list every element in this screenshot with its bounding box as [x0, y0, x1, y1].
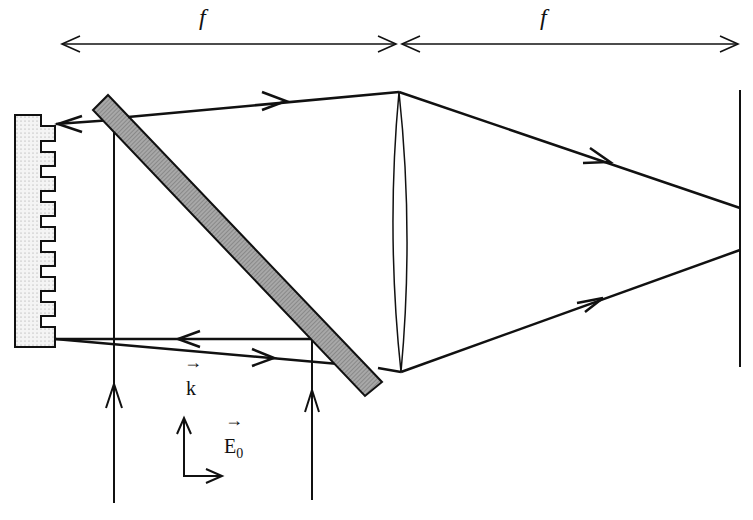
field-subscript: 0: [236, 446, 243, 461]
focal-length-arrow-right: [402, 36, 738, 52]
focal-length-label-right: f: [540, 4, 547, 31]
polarization-axes-icon: [177, 418, 222, 483]
lens: [393, 92, 407, 372]
wave-vector-label: k: [186, 377, 196, 400]
diffraction-grating: [15, 115, 55, 347]
beams-lens-screen: [399, 92, 740, 372]
wave-vector-arrow: →: [184, 352, 202, 373]
field-vector-arrow: →: [225, 410, 243, 431]
focal-length-arrow-left: [62, 36, 396, 52]
beam-splitter-plate: [93, 95, 382, 396]
focal-length-label-left: f: [199, 4, 206, 31]
optics-diagram: [0, 0, 753, 520]
field-amplitude-label: E0: [224, 435, 243, 462]
field-symbol: E: [224, 435, 236, 457]
beams-plate-lens: [128, 92, 401, 372]
